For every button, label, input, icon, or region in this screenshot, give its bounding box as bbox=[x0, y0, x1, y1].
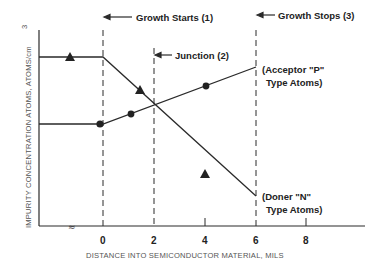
x-tick-label: 0 bbox=[100, 235, 106, 246]
x-tick-label: 2 bbox=[151, 235, 157, 246]
junction-label: Junction (2) bbox=[175, 50, 229, 61]
y-axis-label: IMPURITY CONCENTRATION ATOMS, ATOMS/cm bbox=[24, 46, 33, 228]
x-tick-label: 4 bbox=[202, 235, 208, 246]
acceptor-p-line bbox=[39, 67, 256, 124]
growth-stops-label: Growth Stops (3) bbox=[278, 10, 355, 21]
x-tick-label: 6 bbox=[253, 235, 259, 246]
triangle-marker bbox=[200, 169, 210, 178]
impurity-concentration-chart: ≈ Growth Starts (1) Junction (2) Growth … bbox=[0, 0, 383, 271]
doner-markers bbox=[65, 52, 210, 178]
y-axis-label-superscript: 3 bbox=[20, 25, 29, 29]
circle-marker bbox=[203, 83, 210, 90]
doner-label-line1: (Doner "N" bbox=[262, 191, 311, 202]
growth-starts-label: Growth Starts (1) bbox=[136, 12, 213, 23]
x-axis-label: DISTANCE INTO SEMICONDUCTOR MATERIAL, MI… bbox=[86, 251, 284, 260]
circle-marker bbox=[96, 120, 103, 127]
acceptor-label-line1: (Acceptor "P" bbox=[262, 64, 324, 75]
y-axis-label-group: IMPURITY CONCENTRATION ATOMS, ATOMS/cm 3 bbox=[20, 25, 33, 228]
circle-marker bbox=[128, 111, 135, 118]
doner-n-line bbox=[39, 57, 256, 196]
acceptor-label-line2: Type Atoms) bbox=[266, 77, 322, 88]
axis-break-mark: ≈ bbox=[68, 222, 76, 232]
x-tick-label: 8 bbox=[303, 235, 309, 246]
triangle-marker bbox=[135, 85, 145, 94]
doner-label-line2: Type Atoms) bbox=[266, 204, 322, 215]
